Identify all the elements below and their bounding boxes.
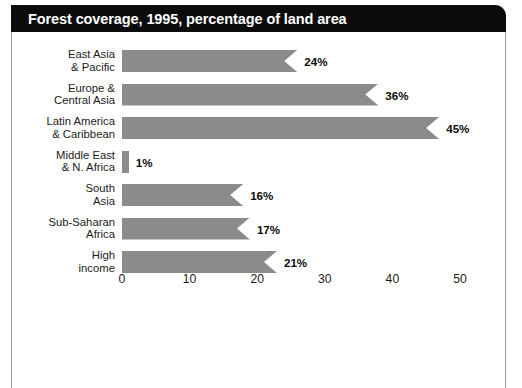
bar-wrapper (122, 84, 378, 106)
bar (122, 50, 297, 72)
plot-area: East Asia & Pacific24%Europe & Central A… (0, 0, 522, 388)
bar-wrapper (122, 251, 277, 273)
x-axis: 01020304050 (0, 272, 522, 290)
bar-wrapper (122, 218, 250, 240)
bar-row: South Asia16% (0, 184, 522, 206)
value-label: 24% (304, 55, 327, 68)
bar-row: Sub-Saharan Africa17% (0, 218, 522, 240)
chart-figure: Forest coverage, 1995, percentage of lan… (0, 0, 522, 388)
bar-wrapper (122, 184, 243, 206)
x-tick-label: 0 (119, 272, 126, 286)
value-label: 36% (385, 88, 408, 101)
category-label: High income (0, 249, 115, 274)
value-label: 21% (284, 256, 307, 269)
bar-row: Middle East & N. Africa1% (0, 151, 522, 173)
bar-wrapper (122, 151, 129, 173)
bar-row: Europe & Central Asia36% (0, 84, 522, 106)
bar (122, 84, 378, 106)
category-label: East Asia & Pacific (0, 48, 115, 73)
bar (122, 218, 250, 240)
x-tick-label: 20 (250, 272, 264, 286)
category-label: South Asia (0, 182, 115, 207)
bar-row: East Asia & Pacific24% (0, 50, 522, 72)
category-label: Middle East & N. Africa (0, 149, 115, 174)
bar-wrapper (122, 117, 439, 139)
bar (122, 184, 243, 206)
bar-row: Latin America & Caribbean45% (0, 117, 522, 139)
bar (122, 251, 277, 273)
category-label: Latin America & Caribbean (0, 115, 115, 140)
bar (122, 117, 439, 139)
value-label: 16% (250, 189, 273, 202)
bar-row: High income21% (0, 251, 522, 273)
category-label: Sub-Saharan Africa (0, 216, 115, 241)
x-tick-label: 10 (183, 272, 197, 286)
bar-wrapper (122, 50, 297, 72)
category-label: Europe & Central Asia (0, 82, 115, 107)
bar (122, 151, 129, 173)
x-tick-label: 40 (386, 272, 400, 286)
value-label: 1% (136, 155, 153, 168)
x-tick-label: 30 (318, 272, 332, 286)
value-label: 45% (446, 122, 469, 135)
x-tick-label: 50 (453, 272, 467, 286)
value-label: 17% (257, 222, 280, 235)
